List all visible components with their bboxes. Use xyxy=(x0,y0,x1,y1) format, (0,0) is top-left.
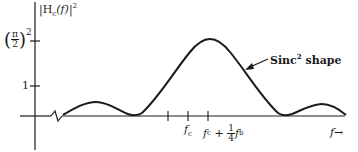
psd-diagram xyxy=(0,0,358,152)
fcq-sub2: b xyxy=(239,130,243,137)
y-tick-label-one: 1 xyxy=(22,80,29,91)
pi-half-sup: 2 xyxy=(26,28,32,37)
x-axis-label: f→ xyxy=(330,127,343,138)
quarter-den: 4 xyxy=(228,134,234,143)
annotation-rest: shape xyxy=(302,54,342,67)
axis-break-mark xyxy=(51,111,62,121)
pi-over-two-fraction: π 2 xyxy=(11,30,19,49)
frac-den: 2 xyxy=(12,40,18,49)
y-label-mid: (f)| xyxy=(56,3,72,16)
y-tick-label-pi-half-squared: ( π 2 ) 2 xyxy=(4,30,32,49)
paren-close: ) xyxy=(19,31,26,49)
x-tick-label-fc: fc xyxy=(184,124,192,138)
y-label-prefix: |H xyxy=(39,3,52,16)
annefotation-arrowhead xyxy=(245,63,254,70)
quarter-fraction: 1 4 xyxy=(227,124,235,143)
fcq-plus: + xyxy=(211,128,227,139)
y-axis-label: |Hc(f)|2 xyxy=(39,3,77,18)
fc-sub: c xyxy=(188,130,192,138)
sinc-squared-annotation: Sinc2 shape xyxy=(270,53,342,66)
paren-open: ( xyxy=(4,31,11,49)
sinc-squared-curve xyxy=(63,39,346,115)
annotation-main: Sinc xyxy=(270,54,297,67)
x-tick-label-fc-plus-quarter-fb: fc + 1 4 fb xyxy=(203,124,244,143)
y-label-sup: 2 xyxy=(73,2,77,10)
